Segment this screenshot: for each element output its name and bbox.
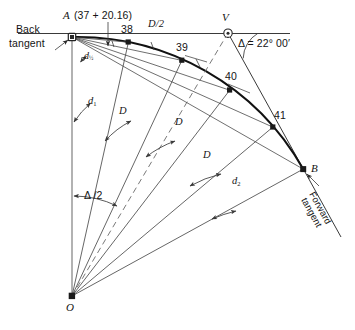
d-label-3: D bbox=[203, 149, 211, 161]
bisector-dashed-line bbox=[72, 33, 228, 296]
station-38-label: 38 bbox=[121, 24, 133, 36]
point-b-marker bbox=[300, 166, 306, 172]
station-39-label: 39 bbox=[176, 42, 188, 54]
point-a-dot bbox=[70, 35, 74, 39]
forward-tangent-leader bbox=[307, 174, 319, 186]
d-half-subscript: ½ bbox=[89, 55, 93, 61]
chord-a-to-b bbox=[72, 37, 303, 169]
station-40-marker bbox=[227, 87, 232, 92]
back-tangent-leader bbox=[55, 40, 68, 50]
d1-subscript: 1 bbox=[93, 100, 96, 107]
station-39-marker bbox=[179, 58, 184, 63]
d-over-2-label: D/2 bbox=[148, 18, 164, 30]
station-40-label: 40 bbox=[225, 71, 237, 83]
station-a-label: (37 + 20.16) bbox=[74, 10, 132, 22]
point-a-label: A bbox=[63, 9, 70, 21]
chord-a-to-41 bbox=[72, 37, 273, 127]
point-v-dot bbox=[227, 32, 230, 35]
radius-to-station-41 bbox=[72, 127, 273, 296]
back-tangent-label-line2: tangent bbox=[9, 38, 45, 50]
point-o-marker bbox=[69, 293, 75, 299]
point-o-label: O bbox=[66, 301, 74, 313]
station-41-label: 41 bbox=[274, 110, 286, 122]
point-b-label: B bbox=[311, 162, 318, 174]
d2-subscript: 2 bbox=[237, 180, 240, 187]
back-tangent-label-line1: Back bbox=[16, 24, 40, 36]
radius-to-pt-b bbox=[72, 169, 303, 296]
station-41-marker bbox=[270, 124, 275, 129]
point-v-label: V bbox=[222, 11, 229, 23]
delta-half-label: Δ /2 bbox=[84, 190, 103, 202]
d-label-1: D bbox=[119, 105, 127, 117]
radius-to-station-38 bbox=[72, 42, 128, 296]
d-label-2: D bbox=[175, 116, 183, 128]
d-angle-arc-2 bbox=[146, 141, 175, 157]
curve-diagram-figure: Back tangent A (37 + 20.16) V Δ = 22° 00… bbox=[0, 0, 355, 330]
station-38-marker bbox=[126, 39, 131, 44]
delta-equation-label: Δ = 22° 00′ bbox=[238, 38, 290, 50]
